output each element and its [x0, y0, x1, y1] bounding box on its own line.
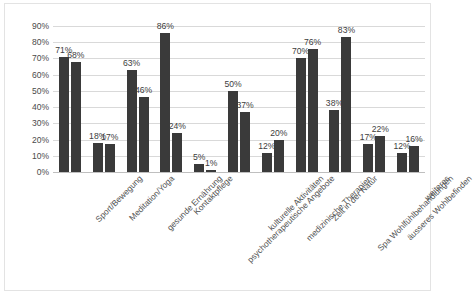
y-axis-tick-label: 80% [7, 38, 49, 47]
gridline [53, 123, 425, 124]
bar-value-label: 86% [157, 22, 174, 31]
bar [194, 164, 204, 172]
bar [296, 58, 306, 172]
gridline [53, 91, 425, 92]
y-axis-tick-label: 50% [7, 87, 49, 96]
bar-value-label: 1% [205, 159, 217, 168]
bar-value-label: 16% [405, 135, 422, 144]
bar-value-label: 37% [236, 101, 253, 110]
bar-value-label: 17% [101, 133, 118, 142]
bar [240, 112, 250, 172]
gridline [53, 42, 425, 43]
bar [375, 136, 385, 172]
bar [329, 110, 339, 172]
bar-value-label: 50% [224, 80, 241, 89]
bar [274, 140, 284, 172]
plot-area: 71%68%18%17%63%46%86%24%5%1%50%37%12%20%… [53, 26, 425, 172]
bar-value-label: 76% [304, 38, 321, 47]
bar [341, 37, 351, 172]
y-axis-tick-label: 30% [7, 119, 49, 128]
bar [105, 144, 115, 172]
y-axis-tick-label: 10% [7, 152, 49, 161]
bar [59, 57, 69, 172]
bar-value-label: 46% [135, 86, 152, 95]
bar [160, 33, 170, 173]
y-axis-tick-label: 20% [7, 135, 49, 144]
bar-value-label: 68% [67, 51, 84, 60]
y-axis: 90%80%70%60%50%40%30%20%10%0% [5, 26, 49, 172]
bar [363, 144, 373, 172]
bar [172, 133, 182, 172]
y-axis-tick-label: 70% [7, 54, 49, 63]
gridline [53, 26, 425, 27]
bar-value-label: 63% [123, 59, 140, 68]
y-axis-tick-label: 40% [7, 103, 49, 112]
bar [262, 153, 272, 172]
bar [206, 170, 216, 172]
bar-value-label: 24% [169, 122, 186, 131]
bar [308, 49, 318, 172]
bar [93, 143, 103, 172]
gridline [53, 58, 425, 59]
y-axis-tick-label: 90% [7, 22, 49, 31]
bar-value-label: 22% [372, 125, 389, 134]
gridline [53, 75, 425, 76]
bar [409, 146, 419, 172]
x-axis-category-label: Zeit in der Natur [330, 174, 378, 222]
bar [71, 62, 81, 172]
axis-baseline [53, 172, 425, 173]
bar-value-label: 20% [270, 129, 287, 138]
y-axis-tick-label: 0% [7, 168, 49, 177]
y-axis-tick-label: 60% [7, 70, 49, 79]
bar [139, 97, 149, 172]
bar-value-label: 83% [338, 26, 355, 35]
bar [397, 153, 407, 172]
chart-frame: 90%80%70%60%50%40%30%20%10%0% 71%68%18%1… [4, 3, 431, 291]
x-axis: Sport/BewegungMeditation/Yogagesunde Ern… [53, 174, 425, 292]
bar-value-label: 5% [193, 153, 205, 162]
